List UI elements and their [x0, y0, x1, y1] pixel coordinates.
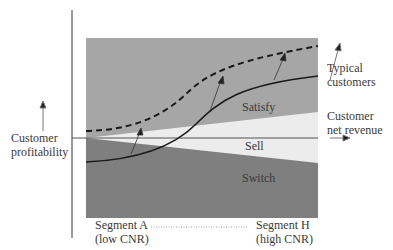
- segment-a-label: Segment A (low CNR): [95, 218, 149, 246]
- typical-customers-label: Typical customers: [327, 61, 376, 89]
- segment-h-label: Segment H (high CNR): [256, 218, 313, 246]
- x-axis-label-line1: Customer: [327, 109, 383, 123]
- segment-h-line2: (high CNR): [256, 232, 313, 246]
- sell-label: Sell: [245, 139, 264, 153]
- y-axis-label-line1: Customer: [11, 131, 68, 145]
- typical-customers-label-line2: customers: [327, 75, 376, 89]
- typical-customers-label-line1: Typical: [327, 61, 376, 75]
- segment-a-line2: (low CNR): [95, 232, 149, 246]
- segment-a-line1: Segment A: [95, 218, 149, 232]
- y-axis-label: Customer profitability: [11, 131, 68, 159]
- x-axis-label-line2: net revenue: [327, 123, 383, 137]
- y-axis-label-line2: profitability: [11, 145, 68, 159]
- segment-h-line1: Segment H: [256, 218, 313, 232]
- x-axis-label: Customer net revenue: [327, 109, 383, 137]
- satisfy-label: Satisfy: [242, 100, 275, 114]
- switch-label: Switch: [242, 171, 275, 185]
